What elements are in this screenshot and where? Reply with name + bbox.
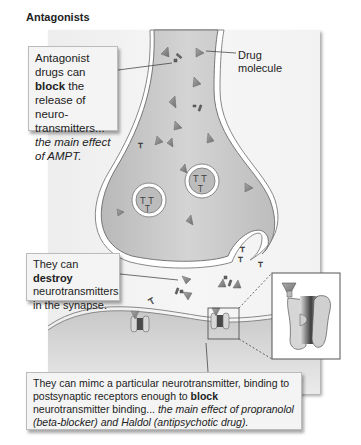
vesicle: T T T	[132, 183, 166, 217]
drug-label-line2: molecule	[238, 62, 282, 75]
callout-text: They can	[33, 258, 78, 270]
svg-text:T: T	[238, 255, 243, 264]
callout-text: neurotransmitters in the synapse.	[33, 285, 119, 311]
svg-text:T: T	[240, 245, 245, 254]
receptor-right	[211, 308, 229, 329]
svg-text:T T: T T	[192, 174, 207, 184]
callout-block-receptor: They can mimc a particular neurotransmit…	[26, 372, 302, 430]
callout-text: Antagonist drugs can	[35, 52, 89, 78]
callout-destroy: They can destroy neurotransmitters in th…	[26, 253, 120, 301]
callout-block-release: Antagonist drugs can block the release o…	[28, 46, 118, 131]
vesicle: T T T	[185, 164, 219, 198]
callout-text: They can mimc a particular neurotransmit…	[33, 377, 289, 402]
callout-emphasis: block	[35, 80, 65, 92]
callout-emphasis: block	[191, 390, 218, 402]
drug-label-line1: Drug	[238, 49, 282, 62]
drug-molecule-label: Drug molecule	[238, 49, 282, 75]
svg-text:T: T	[197, 185, 203, 194]
svg-text:T: T	[138, 141, 143, 150]
receptor-inset	[272, 273, 340, 359]
svg-text:T: T	[258, 260, 263, 269]
svg-text:T: T	[144, 205, 150, 214]
callout-text: neurotransmitter binding...	[33, 403, 155, 415]
callout-emphasis: destroy	[33, 272, 73, 284]
svg-text:T: T	[147, 295, 157, 307]
